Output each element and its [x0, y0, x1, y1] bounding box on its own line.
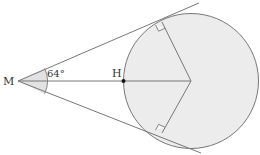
- label-h: H: [112, 67, 122, 80]
- label-m: M: [3, 75, 14, 88]
- label-angle: 64°: [47, 68, 65, 79]
- diagram-canvas: M H 64°: [0, 0, 260, 155]
- tangent-circle-diagram: M H 64°: [0, 0, 260, 155]
- point-h-dot: [122, 79, 126, 83]
